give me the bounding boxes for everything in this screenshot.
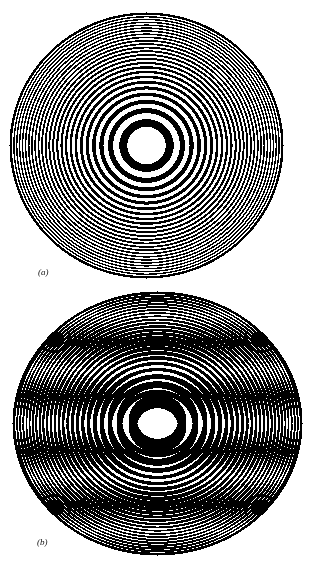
panel-label-b: (b) <box>37 537 48 547</box>
panel-label-a: (a) <box>38 267 49 277</box>
zone-plate-figure <box>0 0 315 561</box>
